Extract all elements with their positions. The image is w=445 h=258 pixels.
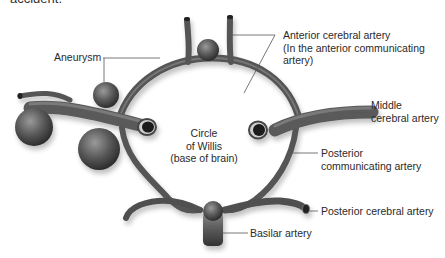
right-anterior-cerebral [230,18,231,62]
anterior-cerebral-label: Anterior cerebral artery (In the anterio… [283,29,425,67]
aneurysm-label: Aneurysm [54,51,101,64]
aneurysm-large-left [15,108,53,146]
posterior-communicating-label: Posterior communicating artery [321,147,421,172]
anterior-aneurysm [197,39,219,61]
left-anterior-cerebral [187,20,189,62]
circle-of-willis-title: Circle of Willis (base of brain) [166,127,242,165]
left-top-branch [20,93,70,100]
aneurysm-top [93,82,119,108]
basilar-artery-label: Basilar artery [250,227,312,240]
basilar-bulb [203,201,223,221]
aneurysm-large-bottom [78,128,120,170]
circle-loop [118,58,300,122]
middle-cerebral-label: Middle cerebral artery [371,99,439,124]
right-posterior-cerebral [225,201,305,210]
posterior-cerebral-label: Posterior cerebral artery [321,205,434,218]
